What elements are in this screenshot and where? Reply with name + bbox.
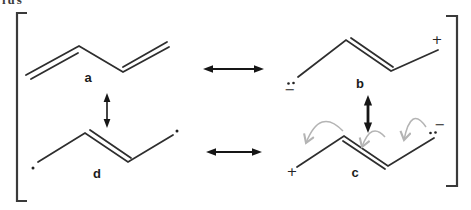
structure-c-minus-charge: − [435, 117, 446, 132]
resonance-arrow-b-c-icon [364, 95, 372, 133]
structure-c-label: c [351, 165, 358, 180]
structure-b-label: b [356, 76, 364, 91]
structure-d-radical-dots-icon [32, 130, 179, 170]
structure-c-plus-charge: + [287, 164, 298, 179]
structure-b-bonds [298, 38, 438, 77]
structure-b-minus-charge: − [285, 82, 296, 97]
structure-a-bonds [26, 42, 169, 79]
resonance-arrow-a-b-icon [203, 65, 264, 72]
resonance-arrow-a-d-icon [104, 93, 111, 128]
structure-d-label: d [93, 166, 101, 181]
structure-c-lone-pair-icon [429, 131, 437, 134]
resonance-figure: ius [0, 0, 471, 210]
structure-b-plus-charge: + [432, 32, 443, 47]
structure-c-bonds [297, 136, 434, 169]
left-bracket [17, 13, 27, 201]
structure-a-label: a [84, 70, 91, 85]
right-bracket [446, 16, 457, 186]
resonance-arrow-d-c-icon [206, 148, 262, 155]
structure-d-bonds [38, 130, 173, 162]
resonance-diagram-svg [0, 0, 471, 210]
